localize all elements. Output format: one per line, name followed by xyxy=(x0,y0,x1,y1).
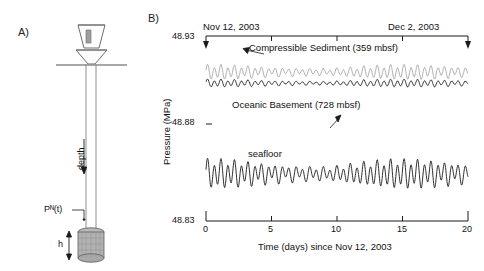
series-sediment xyxy=(206,64,468,79)
x-axis-title: Time (days) since Nov 12, 2003 xyxy=(258,241,392,252)
y-tick-label-min: 48.83 xyxy=(172,215,195,225)
series-seafloor xyxy=(206,158,468,188)
annotation-leaders xyxy=(243,48,341,129)
y-tick-label-max: 48.93 xyxy=(172,31,195,41)
pressure-label: Pᴺ(t) xyxy=(44,204,62,214)
end-date-label: Dec 2, 2003 xyxy=(388,21,439,32)
annotation-seafloor: seafloor xyxy=(248,148,282,159)
x-tick-label-1: 5 xyxy=(268,224,273,234)
depth-label: depth xyxy=(76,147,86,170)
h-dimension-arrow xyxy=(67,231,72,260)
plot-area xyxy=(206,36,468,221)
borehole-casing xyxy=(86,64,96,232)
figure-root: A) xyxy=(0,0,484,271)
reentry-cone-icon xyxy=(76,25,107,64)
packer-screen xyxy=(78,228,104,262)
x-tick-label-4: 20 xyxy=(462,224,472,234)
panel-b-letter: B) xyxy=(148,12,159,24)
y-axis-title: Pressure (MPa) xyxy=(161,98,172,165)
y-tick-label-mid: 48.88 xyxy=(172,117,195,127)
x-tick-label-0: 0 xyxy=(203,224,208,234)
annotation-basement: Oceanic Basement (728 mbsf) xyxy=(232,99,360,110)
pressure-port-leader xyxy=(72,210,85,221)
start-date-label: Nov 12, 2003 xyxy=(203,21,260,32)
x-tick-label-2: 10 xyxy=(331,224,341,234)
series-basement xyxy=(206,79,468,87)
axis-frame xyxy=(206,36,468,221)
end-arrowhead xyxy=(465,41,471,49)
annotation-sediment: Compressible Sediment (359 mbsf) xyxy=(249,42,398,53)
borehole-schematic xyxy=(0,0,150,271)
start-arrowhead xyxy=(203,41,209,49)
x-tick-label-3: 15 xyxy=(397,224,407,234)
height-label: h xyxy=(58,239,63,249)
